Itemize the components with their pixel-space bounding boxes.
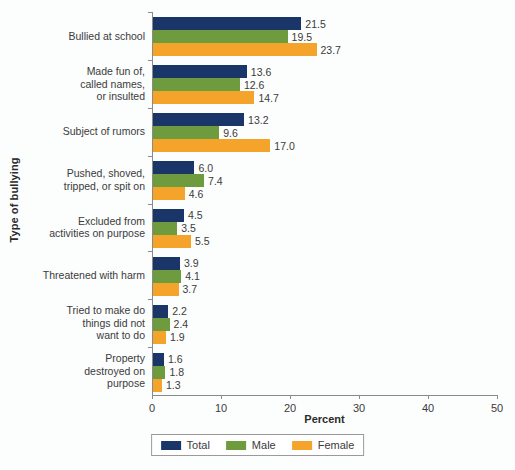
legend-label: Total (187, 439, 210, 451)
legend-entry-male[interactable]: Male (226, 439, 276, 451)
y-axis-tick (148, 60, 152, 61)
category-label: Made fun of, called names, or insulted (10, 60, 145, 108)
bar-total (153, 209, 184, 222)
plot-area: Bullied at school21.519.523.7Made fun of… (152, 12, 497, 395)
bar-row: 5.5 (153, 235, 498, 248)
category-label: Excluded from activities on purpose (10, 204, 145, 252)
bar-male (153, 78, 240, 91)
bar-value-label: 21.5 (305, 18, 325, 30)
bar-value-label: 1.8 (169, 366, 184, 378)
category-label: Property destroyed on purpose (10, 347, 145, 395)
category-label: Bullied at school (10, 12, 145, 60)
bar-group: Threatened with harm3.94.13.7 (152, 251, 497, 299)
x-axis-tick (221, 395, 222, 399)
x-axis-tick (290, 395, 291, 399)
y-axis-tick (148, 204, 152, 205)
bar-value-label: 3.5 (181, 222, 196, 234)
bar-value-label: 1.3 (166, 379, 181, 391)
bar-group: Property destroyed on purpose1.61.81.3 (152, 347, 497, 395)
bar-row: 2.2 (153, 305, 498, 318)
bar-total (153, 305, 168, 318)
bar-value-label: 2.4 (174, 318, 189, 330)
bar-total (153, 257, 180, 270)
bar-male (153, 270, 181, 283)
bar-group: Subject of rumors13.29.617.0 (152, 108, 497, 156)
bar-row: 2.4 (153, 318, 498, 331)
legend-label: Male (252, 439, 276, 451)
bar-row: 3.5 (153, 222, 498, 235)
bar-value-label: 19.5 (292, 31, 312, 43)
legend-label: Female (318, 439, 355, 451)
bar-row: 14.7 (153, 91, 498, 104)
bar-value-label: 4.5 (188, 209, 203, 221)
bar-value-label: 5.5 (195, 235, 210, 247)
bar-value-label: 1.9 (170, 331, 185, 343)
category-label: Subject of rumors (10, 108, 145, 156)
bar-total (153, 17, 301, 30)
legend-swatch-female-icon (292, 441, 312, 450)
x-axis-line (152, 395, 498, 396)
bar-row: 19.5 (153, 30, 498, 43)
bar-row: 1.9 (153, 331, 498, 344)
bar-female (153, 187, 185, 200)
bar-value-label: 14.7 (258, 92, 278, 104)
bar-female (153, 43, 317, 56)
bar-row: 1.8 (153, 366, 498, 379)
bar-value-label: 9.6 (223, 127, 238, 139)
bar-value-label: 6.0 (198, 162, 213, 174)
bar-row: 23.7 (153, 43, 498, 56)
bar-row: 4.1 (153, 270, 498, 283)
bar-group: Bullied at school21.519.523.7 (152, 12, 497, 60)
bar-value-label: 7.4 (208, 175, 223, 187)
bar-group: Made fun of, called names, or insulted13… (152, 60, 497, 108)
bar-row: 4.5 (153, 209, 498, 222)
bar-value-label: 4.6 (189, 188, 204, 200)
bar-row: 13.2 (153, 113, 498, 126)
bar-value-label: 23.7 (321, 44, 341, 56)
legend-swatch-male-icon (226, 441, 246, 450)
y-axis-tick (148, 156, 152, 157)
bar-group: Pushed, shoved, tripped, or spit on6.07.… (152, 156, 497, 204)
bar-row: 9.6 (153, 126, 498, 139)
bar-row: 7.4 (153, 174, 498, 187)
bar-male (153, 318, 170, 331)
bar-total (153, 113, 244, 126)
bar-male (153, 174, 204, 187)
chart-legend: TotalMaleFemale (151, 434, 365, 456)
bar-row: 4.6 (153, 187, 498, 200)
bar-male (153, 222, 177, 235)
bar-value-label: 3.7 (183, 283, 198, 295)
bar-chart: Type of bullying Bullied at school21.519… (0, 0, 515, 470)
bar-group: Excluded from activities on purpose4.53.… (152, 204, 497, 252)
bar-female (153, 91, 254, 104)
y-axis-tick (148, 251, 152, 252)
bar-male (153, 366, 165, 379)
bar-total (153, 353, 164, 366)
bar-value-label: 13.6 (251, 66, 271, 78)
bar-female (153, 139, 270, 152)
bar-row: 3.7 (153, 283, 498, 296)
x-axis-tick (152, 395, 153, 399)
bar-male (153, 126, 219, 139)
bar-row: 1.6 (153, 353, 498, 366)
bar-row: 3.9 (153, 257, 498, 270)
x-axis-tick (359, 395, 360, 399)
x-axis-tick (428, 395, 429, 399)
bar-total (153, 161, 194, 174)
bar-value-label: 12.6 (244, 79, 264, 91)
bar-female (153, 235, 191, 248)
legend-entry-total[interactable]: Total (161, 439, 210, 451)
x-axis-title: Percent (152, 413, 497, 425)
category-label: Tried to make do things did not want to … (10, 299, 145, 347)
bar-value-label: 13.2 (248, 114, 268, 126)
bar-value-label: 17.0 (274, 140, 294, 152)
bar-value-label: 4.1 (185, 270, 200, 282)
bar-value-label: 2.2 (172, 305, 187, 317)
bar-row: 1.3 (153, 379, 498, 392)
y-axis-tick (148, 108, 152, 109)
bar-row: 17.0 (153, 139, 498, 152)
legend-entry-female[interactable]: Female (292, 439, 355, 451)
bar-female (153, 331, 166, 344)
bar-male (153, 30, 288, 43)
y-axis-tick (148, 299, 152, 300)
